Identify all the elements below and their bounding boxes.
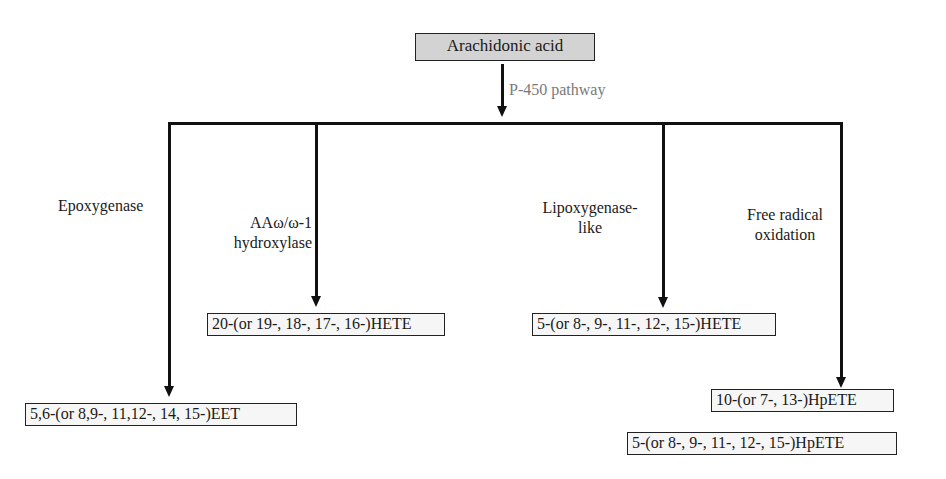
- enzyme-label-hydroxylase: AAω/ω-1 hydroxylase: [208, 213, 312, 253]
- enzyme-label-line-1: Lipoxygenase-: [534, 198, 646, 218]
- enzyme-label-line-2: hydroxylase: [208, 233, 312, 253]
- product-label: 10-(or 7-, 13-)HpETE: [716, 391, 857, 408]
- root-label: Arachidonic acid: [447, 36, 564, 55]
- lipoxygenase-arrow-head-icon: [658, 297, 668, 308]
- enzyme-label-lipoxygenase: Lipoxygenase- like: [534, 198, 646, 238]
- product-box-eet: 5,6-(or 8,9-, 11,12-, 14, 15-)EET: [25, 403, 297, 426]
- product-label: 5-(or 8-, 9-, 11-, 12-, 15-)HETE: [537, 315, 741, 332]
- root-arrow-head-icon: [497, 106, 507, 117]
- enzyme-label-line-2: like: [534, 218, 646, 238]
- root-arrow-shaft: [501, 64, 504, 108]
- branch-bar: [168, 122, 843, 125]
- product-box-hpete-radical: 10-(or 7-, 13-)HpETE: [711, 389, 894, 412]
- product-label: 20-(or 19-, 18-, 17-, 16-)HETE: [212, 315, 412, 332]
- pathway-label: P-450 pathway: [509, 80, 605, 100]
- product-label: 5,6-(or 8,9-, 11,12-, 14, 15-)EET: [30, 405, 240, 422]
- free-radical-arrow-shaft: [840, 122, 843, 378]
- enzyme-label-line-1: AAω/ω-1: [208, 213, 312, 233]
- lipoxygenase-arrow-shaft: [662, 122, 665, 298]
- product-box-hpete-positions: 5-(or 8-, 9-, 11-, 12-, 15-)HpETE: [627, 432, 897, 455]
- root-node-arachidonic-acid: Arachidonic acid: [415, 33, 595, 61]
- product-label: 5-(or 8-, 9-, 11-, 12-, 15-)HpETE: [632, 434, 844, 451]
- product-box-hete-lipoxygenase: 5-(or 8-, 9-, 11-, 12-, 15-)HETE: [532, 313, 776, 336]
- enzyme-label-epoxygenase: Epoxygenase: [58, 196, 143, 216]
- enzyme-label-line-1: Free radical: [735, 205, 835, 225]
- free-radical-arrow-head-icon: [836, 377, 846, 388]
- hydroxylase-arrow-shaft: [315, 122, 318, 297]
- epoxygenase-arrow-shaft: [168, 122, 171, 387]
- product-box-hete-omega: 20-(or 19-, 18-, 17-, 16-)HETE: [207, 313, 445, 336]
- enzyme-label-line-2: oxidation: [735, 225, 835, 245]
- enzyme-label-free-radical: Free radical oxidation: [735, 205, 835, 245]
- hydroxylase-arrow-head-icon: [311, 296, 321, 307]
- epoxygenase-arrow-head-icon: [164, 386, 174, 397]
